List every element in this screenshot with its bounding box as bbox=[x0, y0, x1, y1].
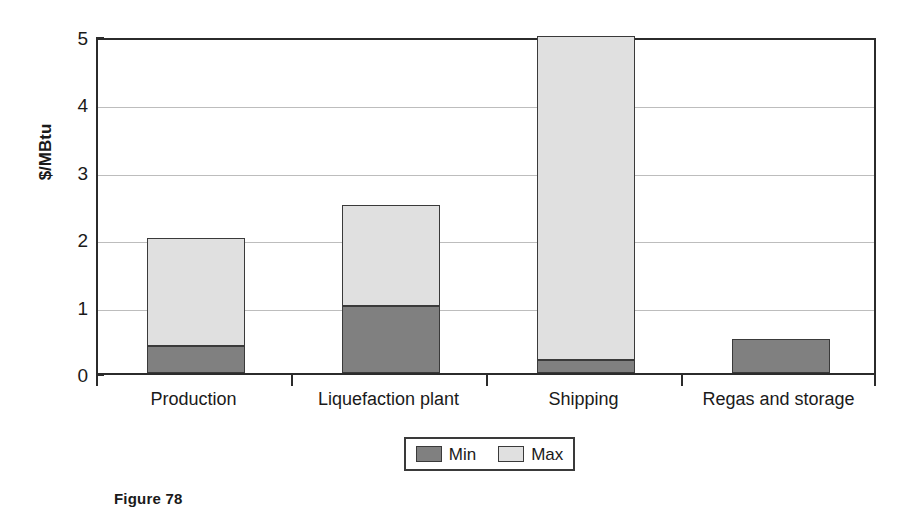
x-axis-label-liquefaction-plant: Liquefaction plant bbox=[291, 387, 486, 411]
stacked-bar[interactable] bbox=[732, 36, 830, 373]
bar-segment-max[interactable] bbox=[147, 238, 245, 346]
y-tick-label-4: 4 bbox=[28, 96, 88, 115]
bar-segment-max[interactable] bbox=[537, 36, 635, 360]
figure-caption: Figure 78 bbox=[114, 490, 183, 507]
bar-group bbox=[488, 40, 683, 373]
y-tick-label-0: 0 bbox=[28, 366, 88, 385]
x-axis-label-shipping: Shipping bbox=[486, 387, 681, 411]
x-tick-mark bbox=[874, 375, 876, 386]
x-tick-mark bbox=[96, 375, 98, 386]
x-axis-category-labels: ProductionLiquefaction plantShippingRega… bbox=[96, 387, 876, 415]
bar-segment-min[interactable] bbox=[342, 306, 440, 373]
bar-segment-min[interactable] bbox=[147, 346, 245, 373]
legend-swatch-min bbox=[416, 446, 442, 462]
stacked-bar[interactable] bbox=[342, 36, 440, 373]
x-tick-mark bbox=[486, 375, 488, 386]
x-tick-mark bbox=[681, 375, 683, 386]
y-tick-label-1: 1 bbox=[28, 299, 88, 318]
y-tick-label-3: 3 bbox=[28, 164, 88, 183]
stacked-bar[interactable] bbox=[537, 36, 635, 373]
stacked-bar[interactable] bbox=[147, 36, 245, 373]
legend-item-max[interactable]: Max bbox=[498, 446, 563, 463]
bar-segment-min[interactable] bbox=[732, 339, 830, 373]
legend-label-min: Min bbox=[449, 446, 476, 463]
bar-group bbox=[98, 40, 293, 373]
chart-legend: MinMax bbox=[404, 437, 575, 471]
y-tick-label-2: 2 bbox=[28, 231, 88, 250]
bar-segment-max[interactable] bbox=[342, 205, 440, 306]
x-axis-label-regas-and-storage: Regas and storage bbox=[681, 387, 876, 411]
x-axis-ticks bbox=[96, 375, 876, 387]
bar-segment-min[interactable] bbox=[537, 360, 635, 373]
legend-swatch-max bbox=[498, 446, 524, 462]
plot-area bbox=[96, 38, 876, 375]
x-axis-label-production: Production bbox=[96, 387, 291, 411]
y-axis-ticks: 012345 bbox=[14, 0, 88, 523]
x-tick-mark bbox=[291, 375, 293, 386]
bar-group bbox=[293, 40, 488, 373]
bar-group bbox=[683, 40, 878, 373]
y-tick-label-5: 5 bbox=[28, 29, 88, 48]
legend-item-min[interactable]: Min bbox=[416, 446, 476, 463]
legend-label-max: Max bbox=[531, 446, 563, 463]
figure-78-container: $/MBtu 012345 ProductionLiquefaction pla… bbox=[0, 0, 910, 523]
